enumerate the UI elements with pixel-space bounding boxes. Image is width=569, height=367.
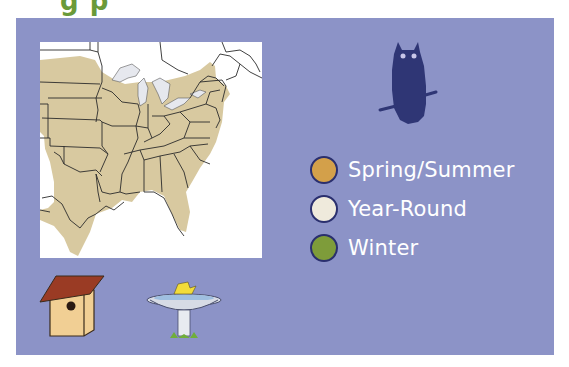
year-round-swatch [310, 195, 338, 223]
birdhouse-icon [36, 272, 106, 338]
range-map-panel: Spring/Summer Year-Round Winter [16, 18, 554, 355]
range-map [40, 42, 262, 258]
legend-item-spring-summer: Spring/Summer [310, 150, 515, 189]
map-legend: Spring/Summer Year-Round Winter [310, 150, 515, 267]
spring-summer-swatch [310, 156, 338, 184]
legend-label: Winter [348, 236, 418, 260]
legend-item-winter: Winter [310, 228, 515, 267]
owl-icon [378, 36, 438, 126]
us-east-map [40, 42, 262, 258]
legend-item-year-round: Year-Round [310, 189, 515, 228]
legend-label: Year-Round [348, 197, 467, 221]
legend-label: Spring/Summer [348, 158, 515, 182]
winter-swatch [310, 234, 338, 262]
page-title-fragment: g p [60, 0, 109, 16]
birdbath-icon [144, 280, 224, 342]
